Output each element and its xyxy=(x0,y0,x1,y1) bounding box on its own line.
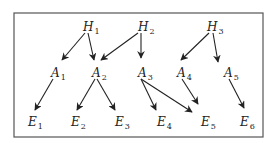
edge-a5-to-e6-arrow-icon xyxy=(229,79,244,108)
node-letter: E xyxy=(114,115,124,129)
node-subscript: 3 xyxy=(218,27,223,36)
node-a2: A2 xyxy=(91,66,107,82)
node-e3: E3 xyxy=(114,115,130,131)
node-e5: E5 xyxy=(200,115,216,131)
node-letter: E xyxy=(239,115,249,129)
node-letter: A xyxy=(137,66,147,80)
hierarchy-diagram: H1H2H3A1A2A3A4A5E1E2E3E4E5E6 xyxy=(0,0,277,143)
node-letter: H xyxy=(82,20,94,34)
edge-a2-to-e2-arrow-icon xyxy=(77,79,95,110)
node-letter: E xyxy=(156,115,166,129)
node-h1: H1 xyxy=(82,20,100,36)
node-letter: H xyxy=(137,20,149,34)
node-e1: E1 xyxy=(27,115,43,131)
node-subscript: 4 xyxy=(167,122,172,131)
node-subscript: 3 xyxy=(148,73,153,82)
node-e6: E6 xyxy=(239,115,255,131)
node-a1: A1 xyxy=(50,66,66,82)
node-subscript: 1 xyxy=(38,122,43,131)
edge-a2-to-e3-arrow-icon xyxy=(97,79,115,110)
node-subscript: 4 xyxy=(187,73,192,82)
edge-a1-to-e1-arrow-icon xyxy=(35,79,53,110)
node-subscript: 1 xyxy=(94,27,99,36)
node-subscript: 3 xyxy=(125,122,130,131)
node-a5: A5 xyxy=(223,66,239,82)
node-subscript: 2 xyxy=(149,27,154,36)
node-letter: E xyxy=(27,115,37,129)
node-e4: E4 xyxy=(156,115,172,131)
node-e2: E2 xyxy=(70,115,86,131)
node-letter: H xyxy=(206,20,218,34)
node-h2: H2 xyxy=(137,20,155,36)
node-subscript: 5 xyxy=(211,122,216,131)
node-letter: E xyxy=(200,115,210,129)
node-subscript: 5 xyxy=(234,73,239,82)
edge-a4-to-e5-arrow-icon xyxy=(182,79,198,104)
edge-h2-to-a2-arrow-icon xyxy=(101,33,138,60)
node-letter: A xyxy=(223,66,233,80)
edge-h3-to-a5-arrow-icon xyxy=(213,33,218,62)
node-letter: E xyxy=(70,115,80,129)
node-a4: A4 xyxy=(176,66,192,82)
node-subscript: 2 xyxy=(102,73,107,82)
node-a3: A3 xyxy=(137,66,153,82)
edge-h1-to-a2-arrow-icon xyxy=(88,33,94,60)
node-subscript: 2 xyxy=(81,122,86,131)
node-letter: A xyxy=(176,66,186,80)
node-h3: H3 xyxy=(206,20,224,36)
node-subscript: 1 xyxy=(61,73,66,82)
node-letter: A xyxy=(50,66,60,80)
edge-h1-to-a1-arrow-icon xyxy=(62,33,85,60)
edge-h3-to-a4-arrow-icon xyxy=(181,33,209,60)
node-letter: A xyxy=(91,66,101,80)
node-subscript: 6 xyxy=(250,122,255,131)
